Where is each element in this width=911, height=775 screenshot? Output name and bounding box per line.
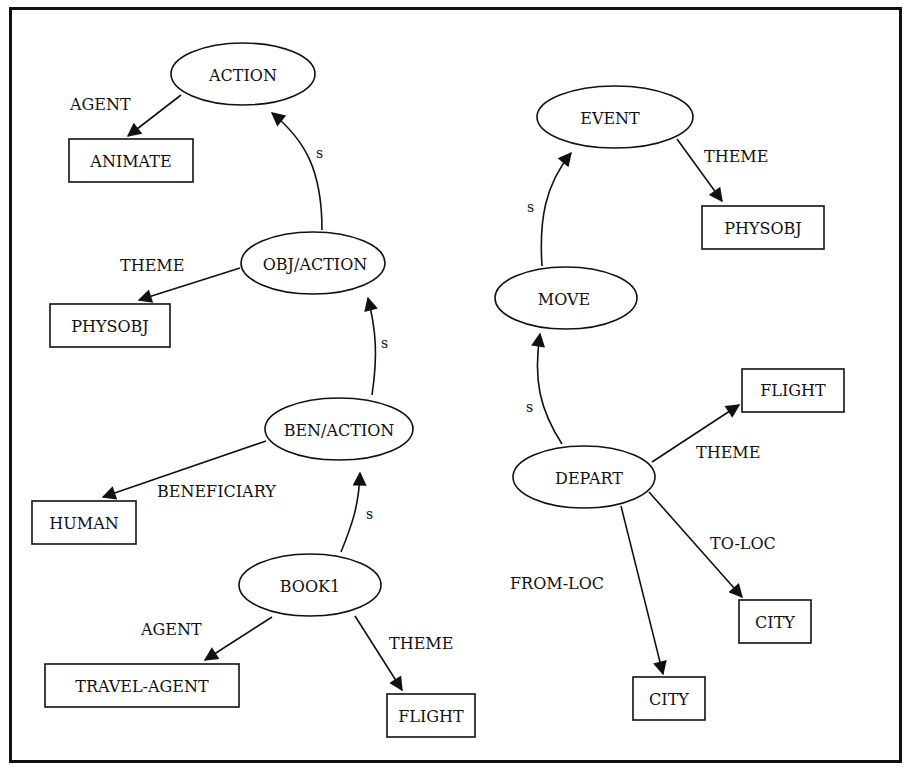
- edge-label-s-move-event: s: [527, 199, 534, 215]
- edge-label-from-loc: FROM-LOC: [510, 574, 604, 593]
- edge-book1-agent: [205, 617, 272, 660]
- node-label-action: ACTION: [208, 66, 277, 85]
- edge-label-theme-book: THEME: [389, 634, 453, 653]
- edge-book1-theme: [355, 616, 402, 690]
- edge-label-s1: s: [316, 145, 323, 161]
- edge-depart-from-loc: [621, 506, 663, 674]
- node-label-ben-action: BEN/ACTION: [284, 421, 395, 440]
- node-label-move: MOVE: [538, 290, 590, 309]
- edge-label-theme-depart: THEME: [696, 443, 760, 462]
- box-label-animate: ANIMATE: [89, 152, 171, 171]
- edge-label-s2: s: [381, 335, 388, 351]
- semantic-network-diagram: ACTION OBJ/ACTION BEN/ACTION BOOK1 ANIMA…: [0, 0, 911, 775]
- edge-action-agent: [128, 95, 181, 136]
- edge-move-s: [541, 153, 571, 266]
- edge-label-theme-event: THEME: [704, 147, 768, 166]
- node-label-obj-action: OBJ/ACTION: [263, 255, 368, 274]
- edge-label-theme-obj: THEME: [120, 256, 184, 275]
- box-label-physobj-right: PHYSOBJ: [724, 219, 802, 238]
- edge-obj-action-s: [272, 113, 322, 230]
- box-label-flight-right: FLIGHT: [760, 381, 826, 400]
- edge-label-beneficiary: BENEFICIARY: [157, 482, 276, 501]
- box-label-physobj-left: PHYSOBJ: [71, 317, 149, 336]
- box-label-human: HUMAN: [49, 514, 118, 533]
- edge-depart-s: [537, 334, 562, 444]
- edge-label-agent-top: AGENT: [69, 95, 131, 114]
- node-label-event: EVENT: [580, 109, 640, 128]
- node-label-depart: DEPART: [555, 469, 623, 488]
- box-label-flight-left: FLIGHT: [398, 707, 464, 726]
- edge-label-s3: s: [366, 506, 373, 522]
- edge-ben-action-s: [368, 298, 375, 395]
- edge-label-to-loc: TO-LOC: [710, 534, 776, 553]
- edge-label-s-depart-move: s: [526, 399, 533, 415]
- box-label-city-from: CITY: [649, 690, 689, 709]
- node-label-book1: BOOK1: [280, 577, 340, 596]
- edge-label-agent-book: AGENT: [140, 620, 202, 639]
- box-label-city-to: CITY: [755, 613, 795, 632]
- box-label-travel-agent: TRAVEL-AGENT: [75, 677, 209, 696]
- edge-book1-s: [341, 473, 360, 552]
